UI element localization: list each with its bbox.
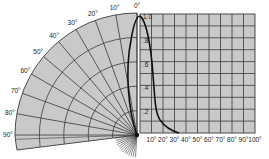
polar-angle-label: 50° — [33, 48, 43, 55]
x-axis-label: 40° — [181, 136, 191, 143]
polar-angle-label: 0° — [134, 2, 141, 9]
rect-x-axis-labels: 10°20°30°40°50°60°70°80°90°100° — [147, 136, 263, 143]
radiation-pattern-diagram: 0°10°20°30°40°50°60°70°80°90° 1.0.8.6.4.… — [0, 0, 269, 159]
x-axis-label: 60° — [204, 136, 214, 143]
polar-chart: 0°10°20°30°40°50°60°70°80°90° — [3, 2, 140, 157]
x-axis-label: 100° — [248, 136, 262, 143]
polar-angle-label: 30° — [68, 19, 78, 26]
x-axis-label: 20° — [158, 136, 168, 143]
polar-angle-label: 20° — [88, 10, 98, 17]
x-axis-label: 90° — [239, 136, 249, 143]
y-axis-label: .6 — [143, 61, 149, 68]
x-axis-label: 30° — [170, 136, 180, 143]
polar-angle-label: 10° — [110, 4, 120, 11]
polar-angle-label: 90° — [3, 131, 13, 138]
y-axis-label: 1.0 — [143, 13, 152, 20]
polar-angle-label: 40° — [49, 32, 59, 39]
rectangular-chart: 1.0.8.6.4.2 10°20°30°40°50°60°70°80°90°1… — [140, 13, 262, 143]
x-axis-label: 70° — [216, 136, 226, 143]
x-axis-label: 10° — [147, 136, 157, 143]
y-axis-label: .2 — [143, 108, 149, 115]
x-axis-label: 80° — [227, 136, 237, 143]
polar-angle-label: 80° — [5, 109, 15, 116]
polar-angle-label: 60° — [20, 67, 30, 74]
polar-angle-label: 70° — [11, 87, 21, 94]
y-axis-label: .4 — [143, 84, 149, 91]
polar-origin — [135, 133, 139, 137]
x-axis-label: 50° — [193, 136, 203, 143]
